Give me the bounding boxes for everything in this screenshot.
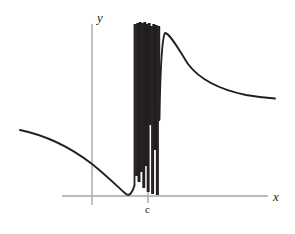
curve-right-branch xyxy=(159,33,275,120)
y-axis-label: y xyxy=(97,11,103,24)
curve-group xyxy=(20,22,275,195)
graph-canvas xyxy=(0,0,295,234)
curve-left-branch xyxy=(20,130,134,195)
c-point-label: c xyxy=(145,204,150,215)
axes-group xyxy=(62,24,268,205)
function-graph-figure: y x c xyxy=(0,0,295,234)
x-axis-label: x xyxy=(273,190,279,203)
curve-oscillation-band xyxy=(135,22,160,195)
